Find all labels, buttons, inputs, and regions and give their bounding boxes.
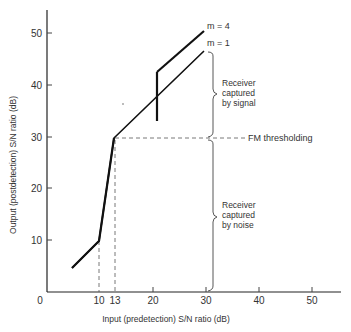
svg-text:40: 40 — [31, 80, 43, 91]
svg-text:30: 30 — [200, 295, 212, 306]
svg-text:captured: captured — [222, 210, 255, 220]
x-axis-title: Input (predetection) S/N ratio (dB) — [102, 314, 230, 324]
label-m4: m = 4 — [207, 21, 230, 31]
svg-text:50: 50 — [31, 28, 43, 39]
svg-text:30: 30 — [31, 132, 43, 143]
bracket-noise — [208, 140, 217, 291]
y-ticks — [47, 33, 52, 240]
x-ticks — [153, 287, 312, 292]
svg-text:10: 10 — [31, 235, 43, 246]
curve-m1 — [72, 51, 204, 268]
svg-text:Receiver: Receiver — [222, 78, 256, 88]
bracket-signal — [208, 52, 217, 137]
y-axis-title: Output (postdetection) S/N ratio (dB) — [8, 96, 18, 234]
chart: 10 20 30 40 50 0 10 13 20 30 40 50 Input… — [0, 0, 351, 332]
label-fm-thresholding: FM thresholding — [248, 133, 313, 143]
svg-text:by signal: by signal — [222, 98, 256, 108]
svg-text:13: 13 — [109, 295, 121, 306]
curve-m4-upper — [157, 31, 204, 72]
label-m1: m = 1 — [207, 38, 230, 48]
svg-text:20: 20 — [31, 183, 43, 194]
label-captured-by-signal: Receiver captured by signal — [222, 78, 256, 108]
x-tick-labels: 0 10 13 20 30 40 50 — [37, 295, 318, 306]
svg-text:40: 40 — [253, 295, 265, 306]
svg-text:10: 10 — [93, 295, 105, 306]
y-tick-labels: 10 20 30 40 50 — [31, 28, 43, 246]
svg-text:captured: captured — [222, 88, 255, 98]
svg-text:50: 50 — [306, 295, 318, 306]
svg-text:by noise: by noise — [222, 220, 254, 230]
svg-text:Receiver: Receiver — [222, 200, 256, 210]
svg-text:20: 20 — [147, 295, 159, 306]
curve-shared-low — [72, 138, 114, 268]
label-captured-by-noise: Receiver captured by noise — [222, 200, 256, 230]
stray-dot — [122, 103, 124, 105]
svg-text:0: 0 — [37, 295, 43, 306]
